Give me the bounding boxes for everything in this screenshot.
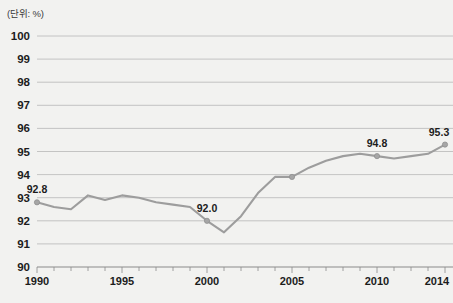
- x-tick-label-2010: 2010: [365, 275, 389, 287]
- y-tick-label-90: 90: [17, 261, 30, 273]
- x-axis-tick-labels: 199019952000200520102014: [25, 275, 450, 287]
- marker-2010: [374, 154, 379, 159]
- y-tick-label-91: 91: [17, 238, 30, 250]
- line-chart-plot: 90919293949596979899100 1990199520002005…: [0, 0, 453, 303]
- y-tick-label-94: 94: [17, 169, 30, 181]
- data-value-labels: 92.892.094.895.3: [27, 126, 450, 214]
- marker-2000: [204, 218, 209, 223]
- x-tick-label-2005: 2005: [280, 275, 304, 287]
- x-tick-label-2000: 2000: [195, 275, 219, 287]
- y-tick-label-92: 92: [17, 215, 30, 227]
- data-label-1990: 92.8: [27, 183, 48, 195]
- series-polyline: [37, 145, 445, 233]
- y-tick-label-98: 98: [17, 76, 30, 88]
- gridlines: [37, 36, 453, 267]
- y-tick-label-100: 100: [11, 30, 30, 42]
- marker-2014: [442, 142, 447, 147]
- data-label-2014: 95.3: [429, 126, 450, 138]
- data-label-2000: 92.0: [197, 202, 218, 214]
- x-tick-label-1995: 1995: [110, 275, 134, 287]
- data-point-markers: [34, 142, 447, 223]
- y-tick-label-95: 95: [17, 146, 30, 158]
- data-label-2010: 94.8: [367, 137, 388, 149]
- y-tick-label-97: 97: [17, 99, 30, 111]
- x-axis-tickmarks: [37, 267, 445, 273]
- y-tick-label-99: 99: [17, 53, 30, 65]
- data-series-line: [37, 145, 445, 233]
- chart-container: (단위: %) 90919293949596979899100 19901995…: [0, 0, 453, 303]
- x-tick-label-2014: 2014: [425, 275, 450, 287]
- y-tick-label-96: 96: [17, 122, 30, 134]
- marker-1990: [34, 200, 39, 205]
- y-axis-tick-labels: 90919293949596979899100: [11, 30, 31, 273]
- marker-2005: [289, 174, 294, 179]
- x-tick-label-1990: 1990: [25, 275, 49, 287]
